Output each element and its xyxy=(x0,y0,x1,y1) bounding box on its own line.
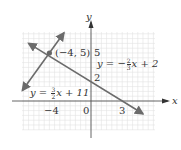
y-tick-2: 2 xyxy=(94,73,100,83)
coordinate-plane xyxy=(0,0,181,150)
origin-label: 0 xyxy=(83,106,89,116)
x-axis-label: x xyxy=(172,96,178,106)
y-tick-5: 5 xyxy=(94,48,100,58)
equation-line-2: y = 32x + 11 xyxy=(30,87,89,100)
x-tick-3: 3 xyxy=(119,106,125,116)
intersection-label: (−4, 5) xyxy=(55,48,90,58)
plot-lines xyxy=(22,33,143,114)
y-axis-label: y xyxy=(86,12,92,22)
equation-line-1: y = −23x + 2 xyxy=(97,58,158,71)
x-tick-neg4: −4 xyxy=(44,106,59,116)
